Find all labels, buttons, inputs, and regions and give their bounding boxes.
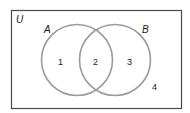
region-3-label: 3 xyxy=(127,57,132,67)
universe-label: U xyxy=(16,14,24,25)
set-b-label: B xyxy=(142,24,149,35)
venn-diagram: U A B 1 2 3 4 xyxy=(0,0,190,113)
set-a-label: A xyxy=(43,24,51,35)
region-1-label: 1 xyxy=(58,57,63,67)
region-2-label: 2 xyxy=(93,57,98,67)
region-4-label: 4 xyxy=(152,82,157,92)
